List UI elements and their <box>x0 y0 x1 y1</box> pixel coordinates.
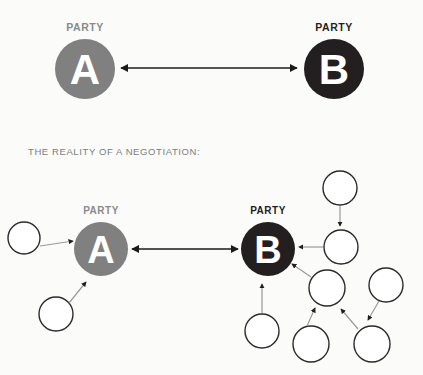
satellite-circle-b-bottom-left <box>293 326 329 362</box>
satellite-circle-a-lower-left <box>39 297 73 331</box>
satellite-circle-b-top <box>323 171 357 205</box>
negotiation-diagram: PARTY A PARTY B THE REALITY OF A NEGOTIA… <box>0 0 423 375</box>
party-b-label-top: PARTY <box>315 21 352 33</box>
party-b-label-bottom: PARTY <box>250 205 286 216</box>
party-b-letter-top: B <box>319 46 349 93</box>
satellite-circle-a-upper-left <box>8 222 40 254</box>
satellite-circle-b-bottom-right <box>354 326 390 362</box>
party-a-label-top: PARTY <box>66 21 103 33</box>
section-caption: THE REALITY OF A NEGOTIATION: <box>28 146 200 157</box>
party-a-label-bottom: PARTY <box>83 205 119 216</box>
party-b-letter-bottom: B <box>254 229 281 271</box>
satellite-circle-b-right <box>324 230 358 264</box>
satellite-circle-b-below <box>245 314 279 348</box>
satellite-circle-b-far-right <box>369 268 403 302</box>
satellite-circle-b-mid-right <box>309 270 345 306</box>
party-a-letter-top: A <box>70 46 100 93</box>
party-a-letter-bottom: A <box>87 229 114 271</box>
